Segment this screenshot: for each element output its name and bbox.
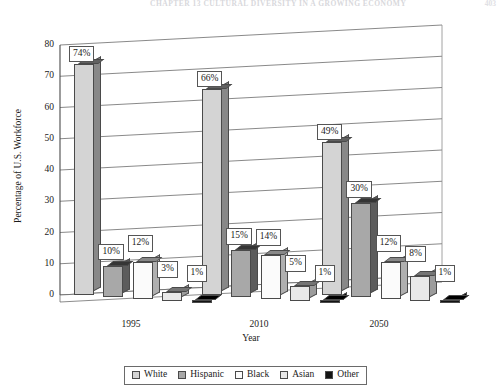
legend-item-other[interactable]: Other [325, 370, 359, 380]
value-label-2010-black: 14% [256, 229, 281, 246]
bar-1995-black[interactable] [133, 262, 153, 300]
bar-face [192, 300, 212, 303]
bar-1995-hispanic[interactable] [103, 266, 123, 297]
y-axis-tick-20: 20 [32, 228, 54, 238]
legend-swatch-icon [178, 371, 186, 379]
bar-face [320, 300, 340, 303]
bars-layer: 74%10%12%3%1%66%15%14%5%1%49%30%12%8%1% [60, 19, 442, 309]
x-axis-tick-labels: 199520102050 [60, 319, 442, 333]
legend-item-black[interactable]: Black [235, 370, 269, 380]
bar-face [410, 276, 430, 301]
y-axis-tick-50: 50 [32, 134, 54, 144]
value-label-2050-white: 49% [317, 124, 342, 141]
legend-label: Black [247, 370, 269, 380]
bar-face [103, 266, 123, 297]
x-axis-tick-2050: 2050 [370, 319, 389, 329]
value-label-2050-other: 1% [435, 265, 456, 282]
value-label-2050-black: 12% [376, 235, 401, 252]
bar-face [261, 255, 281, 299]
legend-swatch-icon [280, 371, 288, 379]
bar-group-2050 [322, 19, 452, 309]
x-axis-title: Year [60, 333, 442, 343]
bar-2050-other[interactable] [440, 300, 460, 303]
bar-2050-asian[interactable] [410, 276, 430, 301]
bar-face [231, 250, 251, 297]
y-axis-title: Percentage of U.S. Workforce [13, 86, 23, 246]
value-label-2010-other: 1% [315, 265, 336, 282]
bar-2010-black[interactable] [261, 255, 281, 299]
plot-area: 74%10%12%3%1%66%15%14%5%1%49%30%12%8%1% [60, 19, 442, 309]
value-label-2050-asian: 8% [405, 246, 426, 263]
bar-side [251, 243, 258, 294]
legend-swatch-icon [325, 371, 333, 379]
y-axis-tick-10: 10 [32, 259, 54, 269]
y-axis-tick-60: 60 [32, 103, 54, 113]
value-label-2010-asian: 5% [285, 255, 306, 272]
legend-item-hispanic[interactable]: Hispanic [178, 370, 224, 380]
bar-1995-white[interactable] [74, 64, 94, 295]
value-label-1995-white: 74% [69, 46, 94, 63]
bar-face [290, 286, 310, 302]
bar-chart: Percentage of U.S. Workforce 01020304050… [0, 11, 502, 388]
bar-face [440, 300, 460, 303]
chart-legend: WhiteHispanicBlackAsianOther [124, 366, 367, 385]
legend-swatch-icon [235, 371, 243, 379]
y-axis-tick-70: 70 [32, 72, 54, 82]
bar-face [202, 89, 222, 295]
bar-2050-hispanic[interactable] [351, 203, 371, 297]
y-axis-tick-80: 80 [32, 40, 54, 50]
bar-1995-asian[interactable] [162, 292, 182, 301]
page-running-header: CHAPTER 13 CULTURAL DIVERSITY IN A GROWI… [0, 0, 502, 11]
bar-group-1995 [74, 19, 204, 309]
value-label-1995-asian: 3% [157, 261, 178, 278]
bar-1995-other[interactable] [192, 300, 212, 303]
bar-face [162, 292, 182, 301]
value-label-1995-other: 1% [187, 265, 208, 282]
y-axis-tick-30: 30 [32, 197, 54, 207]
bar-2010-hispanic[interactable] [231, 250, 251, 297]
bar-face [74, 64, 94, 295]
bar-2010-white[interactable] [202, 89, 222, 295]
x-axis-tick-2010: 2010 [250, 319, 269, 329]
legend-label: White [144, 370, 167, 380]
bar-2010-asian[interactable] [290, 286, 310, 302]
value-label-2010-hispanic: 15% [226, 228, 251, 245]
y-axis-tick-40: 40 [32, 165, 54, 175]
running-head-text: CHAPTER 13 CULTURAL DIVERSITY IN A GROWI… [150, 0, 406, 8]
legend-item-asian[interactable]: Asian [280, 370, 314, 380]
legend-swatch-icon [132, 371, 140, 379]
bar-side [342, 134, 349, 291]
y-axis-tick-labels: 01020304050607080 [28, 11, 54, 388]
value-label-1995-hispanic: 10% [98, 244, 123, 261]
y-axis-tick-0: 0 [32, 290, 54, 300]
bar-side [222, 81, 229, 291]
legend-label: Other [337, 370, 359, 380]
value-label-2010-white: 66% [197, 71, 222, 88]
bar-face [351, 203, 371, 297]
legend-label: Asian [292, 370, 314, 380]
bar-group-2010 [202, 19, 332, 309]
x-axis-tick-1995: 1995 [122, 319, 141, 329]
page-folio-number: 403 [485, 0, 496, 8]
legend-item-white[interactable]: White [132, 370, 167, 380]
bar-2010-other[interactable] [320, 300, 340, 303]
bar-face [133, 262, 153, 300]
bar-top [443, 295, 469, 300]
value-label-2050-hispanic: 30% [346, 181, 371, 198]
value-label-1995-black: 12% [128, 235, 153, 252]
legend-label: Hispanic [190, 370, 224, 380]
bar-face [381, 262, 401, 300]
bar-2050-black[interactable] [381, 262, 401, 300]
